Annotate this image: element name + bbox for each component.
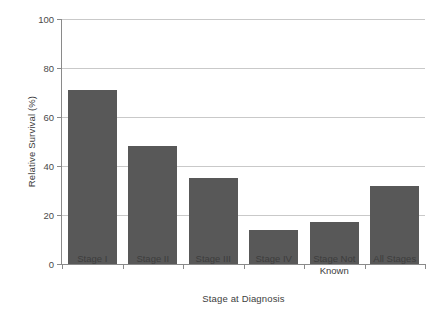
plot-area: 020406080100 <box>62 19 425 264</box>
y-axis-tick-label: 100 <box>38 14 54 25</box>
bar <box>128 146 177 264</box>
y-axis-tick-label: 80 <box>43 63 54 74</box>
gridline <box>62 19 425 20</box>
y-axis-tick <box>57 166 62 167</box>
x-axis-category-label: Stage I <box>62 253 123 265</box>
bar <box>68 90 117 264</box>
y-axis-tick-label: 40 <box>43 161 54 172</box>
bar <box>189 178 238 264</box>
category-label-line: Stage II <box>123 253 184 265</box>
y-axis-line <box>61 19 62 264</box>
category-label-line: Stage III <box>183 253 244 265</box>
x-axis-category-label: Stage IV <box>244 253 305 265</box>
y-axis-tick-label: 60 <box>43 112 54 123</box>
y-axis-tick-label: 20 <box>43 210 54 221</box>
category-label-line: All Stages <box>365 253 426 265</box>
y-axis-tick <box>57 117 62 118</box>
y-axis-tick <box>57 68 62 69</box>
y-axis-tick <box>57 215 62 216</box>
category-label-line: Known <box>304 265 365 277</box>
x-axis-category-label: All Stages <box>365 253 426 265</box>
category-label-line: Stage IV <box>244 253 305 265</box>
x-axis-title: Stage at Diagnosis <box>62 293 425 304</box>
gridline <box>62 68 425 69</box>
x-axis-tick <box>425 264 426 269</box>
x-axis-category-label: Stage NotKnown <box>304 253 365 277</box>
category-label-line: Stage I <box>62 253 123 265</box>
chart-title <box>0 0 433 10</box>
x-axis-category-label: Stage III <box>183 253 244 265</box>
y-axis-title: Relative Survival (%) <box>22 19 42 264</box>
x-axis-category-label: Stage II <box>123 253 184 265</box>
y-axis-tick-label: 0 <box>49 259 54 270</box>
category-label-line: Stage Not <box>304 253 365 265</box>
y-axis-tick <box>57 19 62 20</box>
chart-figure: Relative Survival (%) 020406080100 Stage… <box>0 0 433 316</box>
